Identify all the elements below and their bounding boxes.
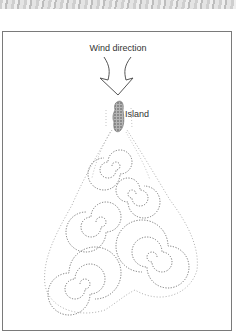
- island-label: Island: [125, 109, 149, 119]
- island-shape: [113, 101, 124, 132]
- vortex-street-envelope: [45, 130, 198, 313]
- vortex-4: [116, 220, 189, 288]
- vortex-3: [66, 202, 121, 252]
- wind-arrow-icon: [100, 57, 133, 95]
- vortex-5: [48, 247, 121, 315]
- wind-direction-label: Wind direction: [89, 43, 146, 53]
- vortex-2: [116, 178, 160, 218]
- vortex-spirals: [48, 150, 189, 315]
- vortex-1: [88, 150, 132, 190]
